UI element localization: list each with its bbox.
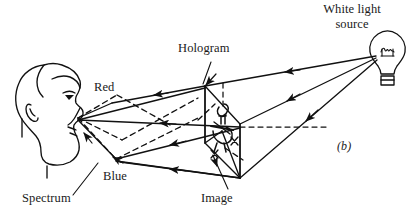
- head-profile-icon: [16, 64, 83, 179]
- dashed-optical-axis: [223, 83, 330, 127]
- eye-icon: [63, 92, 75, 101]
- diagram-canvas: [0, 0, 411, 219]
- label-white-light-source-line2: source: [310, 18, 394, 31]
- panel-label-b: (b): [337, 140, 351, 153]
- diffracted-rays: [78, 86, 240, 178]
- label-hologram: Hologram: [178, 42, 229, 55]
- reconstructed-image-object: [211, 104, 238, 158]
- label-white-light-source-line1: White light: [310, 3, 394, 16]
- label-image: Image: [201, 192, 233, 205]
- label-blue: Blue: [103, 170, 127, 183]
- label-spectrum: Spectrum: [22, 192, 71, 205]
- label-red: Red: [94, 81, 114, 94]
- illumination-rays: [205, 56, 377, 178]
- figure-white-light-hologram: White light source Hologram Red Blue Spe…: [0, 0, 411, 219]
